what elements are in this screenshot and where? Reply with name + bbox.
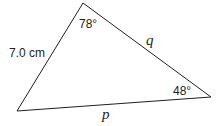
side-p-label: p	[102, 107, 110, 122]
side-left-length: 7.0 cm	[9, 47, 45, 59]
side-q-label: q	[146, 33, 154, 48]
angle-right-label: 48°	[173, 85, 191, 97]
angle-top-label: 78°	[79, 18, 97, 30]
